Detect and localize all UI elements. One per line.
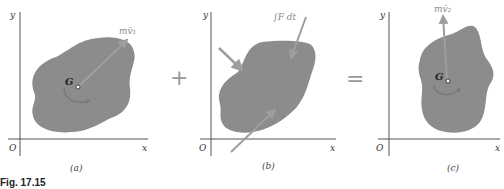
y-axis-label-a: y <box>9 10 16 20</box>
origin-label-a: O <box>9 143 17 153</box>
centroid-point-a <box>76 85 80 89</box>
x-axis-label-c: x <box>495 143 500 153</box>
panel-b: y x O ∫F dt (b) <box>199 10 336 171</box>
panel-label-b: (b) <box>262 161 275 171</box>
x-axis-label-a: x <box>142 143 147 153</box>
centroid-label-c: G <box>435 71 444 82</box>
panel-c: y x O G mv̄₂ Īω₂ (c) <box>376 4 500 173</box>
centroid-label-a: G <box>65 76 74 87</box>
momentum-label-c: mv̄₂ <box>434 4 452 14</box>
y-axis-label-b: y <box>202 10 209 20</box>
origin-label-c: O <box>376 143 384 153</box>
momentum-label-a: mv̄₁ <box>119 26 136 36</box>
origin-label-b: O <box>199 143 207 153</box>
rigid-body-c <box>419 26 494 133</box>
panel-label-a: (a) <box>70 163 83 173</box>
figure-caption: Fig. 17.15 <box>0 177 46 188</box>
impulse-momentum-diagram: y x O G mv̄₁ Īω₁ (a) Fig. 17.15 + y x O … <box>0 0 504 189</box>
rigid-body-a <box>32 37 134 132</box>
panel-label-c: (c) <box>447 163 460 173</box>
plus-sign: + <box>170 65 188 90</box>
x-axis-label-b: x <box>330 143 335 153</box>
impulse-label: ∫F dt <box>273 12 297 22</box>
y-axis-label-c: y <box>379 10 386 20</box>
angular-label-a: Īω₁ <box>93 91 109 102</box>
panel-a: y x O G mv̄₁ Īω₁ (a) <box>8 10 148 173</box>
centroid-point-c <box>446 79 450 83</box>
impulse-arrow-left <box>219 48 242 70</box>
equals-sign: = <box>346 66 364 91</box>
angular-label-c: Īω₂ <box>461 69 477 80</box>
